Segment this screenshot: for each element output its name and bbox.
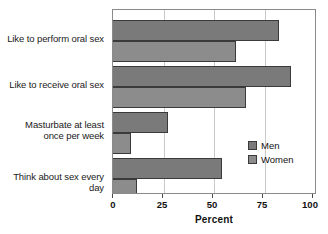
legend-label-men: Men — [261, 140, 279, 151]
legend-item-women: Women — [248, 153, 294, 165]
category-label-1: Like to receive oral sex — [0, 79, 104, 90]
bar-men-3 — [113, 158, 222, 179]
bar-men-0 — [113, 20, 279, 41]
bar-women-1 — [113, 87, 246, 108]
category-label-0: Like to perform oral sex — [0, 33, 104, 44]
x-tick-mark-3 — [262, 194, 263, 198]
legend: Men Women — [248, 139, 294, 167]
legend-item-men: Men — [248, 139, 294, 151]
category-label-2-line-1: once per week — [0, 130, 104, 141]
category-label-2-line-0: Masturbate at least — [0, 119, 104, 130]
bar-chart: Like to perform oral sex Like to receive… — [0, 0, 328, 234]
x-tick-label-4: 100 — [302, 199, 318, 210]
x-axis-title: Percent — [112, 214, 316, 225]
category-label-0-line-0: Like to perform oral sex — [0, 33, 104, 44]
x-tick-mark-1 — [162, 194, 163, 198]
bar-men-2 — [113, 112, 168, 133]
bar-women-2 — [113, 133, 131, 154]
bar-men-1 — [113, 66, 291, 87]
bar-women-0 — [113, 41, 236, 62]
x-tick-mark-0 — [112, 194, 113, 198]
category-label-1-line-0: Like to receive oral sex — [0, 79, 104, 90]
legend-swatch-men-icon — [248, 141, 257, 150]
category-label-2: Masturbate at least once per week — [0, 119, 104, 141]
x-tick-label-3: 75 — [257, 199, 268, 210]
category-axis-labels: Like to perform oral sex Like to receive… — [0, 8, 108, 194]
x-tick-mark-2 — [212, 194, 213, 198]
x-tick-mark-4 — [312, 194, 313, 198]
bar-women-3 — [113, 179, 137, 194]
x-axis: 0 25 50 75 100 — [112, 194, 316, 212]
legend-swatch-women-icon — [248, 155, 257, 164]
x-tick-label-2: 50 — [207, 199, 218, 210]
category-label-3: Think about sex every day — [0, 171, 104, 193]
x-tick-label-0: 0 — [110, 199, 115, 210]
x-tick-label-1: 25 — [157, 199, 168, 210]
legend-label-women: Women — [261, 154, 294, 165]
category-label-3-line-0: Think about sex every day — [0, 171, 104, 193]
